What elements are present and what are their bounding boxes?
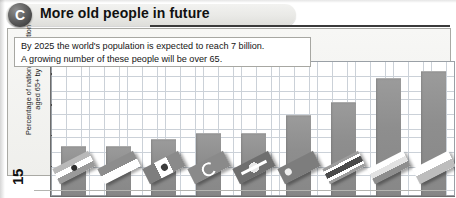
flag-china-star-icon	[283, 167, 292, 176]
flag-mexico-emblem-icon	[159, 163, 168, 172]
y-axis-tick-mark	[50, 135, 52, 136]
page-title: More old people in future	[40, 5, 210, 21]
page-edge-shadow-top	[0, 0, 456, 3]
chart-plot-area: 5101520	[50, 61, 455, 197]
figure-header: C More old people in future	[0, 2, 456, 28]
figure-number: 15	[9, 169, 26, 185]
chart-bar	[331, 102, 356, 196]
figure-panel: Percentage of national population aged 6…	[7, 28, 451, 176]
annotation-line-2: A growing number of these people will be…	[21, 53, 305, 66]
annotation-textbox: By 2025 the world's population is expect…	[14, 37, 311, 67]
y-axis-tick-mark	[50, 104, 52, 105]
flag-india-chakra-icon	[69, 163, 77, 171]
annotation-line-1: By 2025 the world's population is expect…	[21, 40, 305, 53]
page-edge-shadow-left	[0, 0, 5, 198]
y-axis-label: Percentage of national population aged 6…	[24, 5, 42, 155]
y-axis-tick-mark	[50, 73, 52, 74]
header-rule	[150, 25, 450, 27]
bottom-rule	[34, 190, 446, 191]
y-axis-tick-mark	[50, 166, 52, 167]
